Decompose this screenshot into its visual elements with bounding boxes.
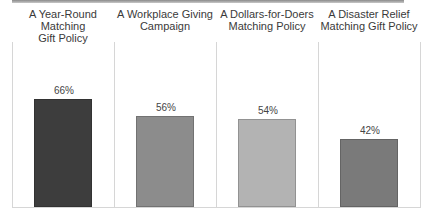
chart-panel: A Disaster ReliefMatching Gift Policy42% — [318, 8, 420, 207]
category-label-line1: A Disaster Relief — [318, 8, 420, 20]
category-label: A Dollars-for-DoersMatching Policy — [216, 8, 318, 32]
panel-frame: 54% — [216, 42, 318, 208]
value-label: 54% — [217, 105, 319, 116]
category-label-line2: Matching Gift Policy — [318, 20, 420, 32]
category-label: A Disaster ReliefMatching Gift Policy — [318, 8, 420, 32]
top-border — [12, 0, 404, 3]
bar — [238, 119, 296, 207]
category-label-line1: A Year-Round Matching — [12, 8, 114, 32]
chart-panel: A Dollars-for-DoersMatching Policy54% — [216, 8, 318, 207]
category-label-line2: Campaign — [114, 20, 216, 32]
bar — [136, 116, 194, 207]
panel-frame: 56% — [114, 42, 216, 208]
panel-frame: 42% — [318, 42, 421, 208]
panel-frame: 66% — [12, 42, 114, 208]
value-label: 56% — [115, 102, 217, 113]
category-label: A Year-Round MatchingGift Policy — [12, 8, 114, 44]
value-label: 66% — [13, 85, 115, 96]
bar — [34, 99, 92, 207]
category-label-line1: A Workplace Giving — [114, 8, 216, 20]
category-label-line1: A Dollars-for-Doers — [216, 8, 318, 20]
chart-panel: A Workplace GivingCampaign56% — [114, 8, 216, 207]
category-label: A Workplace GivingCampaign — [114, 8, 216, 32]
value-label: 42% — [319, 125, 421, 136]
category-label-line2: Matching Policy — [216, 20, 318, 32]
bar — [340, 139, 398, 207]
chart-panel: A Year-Round MatchingGift Policy66% — [12, 8, 114, 207]
